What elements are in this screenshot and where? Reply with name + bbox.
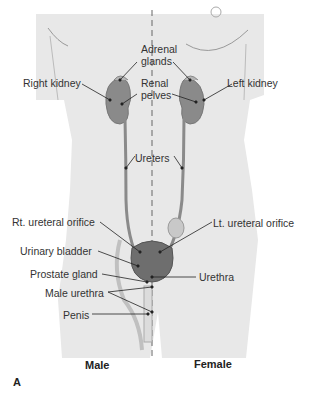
- label-urethra: Urethra: [199, 271, 234, 283]
- label-left-kidney: Left kidney: [227, 77, 278, 89]
- label-penis: Penis: [63, 309, 89, 321]
- label-renal-pelves-line2: pelves: [141, 89, 171, 101]
- caption-female: Female: [194, 358, 232, 370]
- label-ureters: Ureters: [135, 152, 169, 164]
- label-right-kidney: Right kidney: [23, 77, 81, 89]
- label-adrenal-glands-line2: glands: [141, 55, 172, 67]
- panel-label: A: [13, 376, 21, 388]
- caption-male: Male: [85, 359, 109, 371]
- label-prostate-gland: Prostate gland: [30, 268, 98, 280]
- urinary-system-diagram: Adrenal glands Right kidney Left kidney …: [0, 0, 318, 394]
- label-adrenal-glands-line1: Adrenal: [141, 43, 177, 55]
- label-urinary-bladder: Urinary bladder: [20, 245, 92, 257]
- label-male-urethra: Male urethra: [45, 287, 104, 299]
- label-lt-ureteral-orifice: Lt. ureteral orifice: [213, 217, 294, 229]
- label-renal-pelves-line1: Renal: [141, 77, 168, 89]
- label-rt-ureteral-orifice: Rt. ureteral orifice: [12, 216, 95, 228]
